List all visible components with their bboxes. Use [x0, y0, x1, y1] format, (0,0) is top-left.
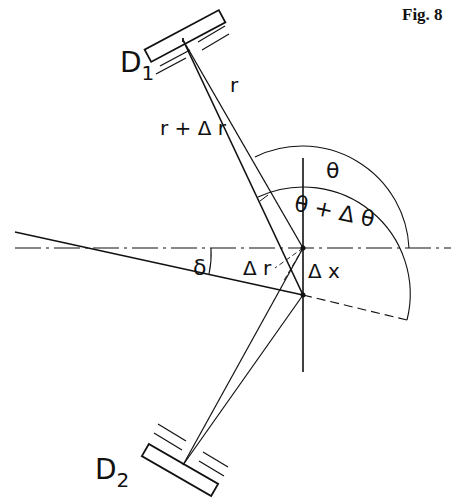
- point-b: [301, 293, 306, 298]
- point-a: [301, 246, 306, 251]
- label-d2: D2: [95, 453, 129, 492]
- detector-d2: [142, 424, 228, 496]
- label-r: r: [230, 73, 239, 97]
- label-r-plus-dr: r + Δ r: [160, 116, 227, 140]
- delta-arc: [209, 248, 211, 274]
- label-delta: δ: [193, 255, 206, 280]
- figure-caption: Fig. 8: [402, 5, 443, 24]
- ray-to-d2-a: [183, 248, 303, 465]
- label-delta-r: Δ r: [243, 256, 272, 280]
- dashed-reference: [303, 295, 407, 320]
- label-delta-x: Δ x: [308, 259, 340, 283]
- detector-d1: [145, 10, 229, 74]
- label-theta: θ: [326, 158, 339, 183]
- label-d1: D1: [120, 46, 154, 85]
- label-theta-plus: θ + Δ θ: [292, 191, 377, 232]
- geometry-diagram: Fig. 8 D1 D2: [0, 0, 451, 503]
- ray-to-d2-b: [183, 295, 303, 465]
- ray-r: [183, 40, 303, 248]
